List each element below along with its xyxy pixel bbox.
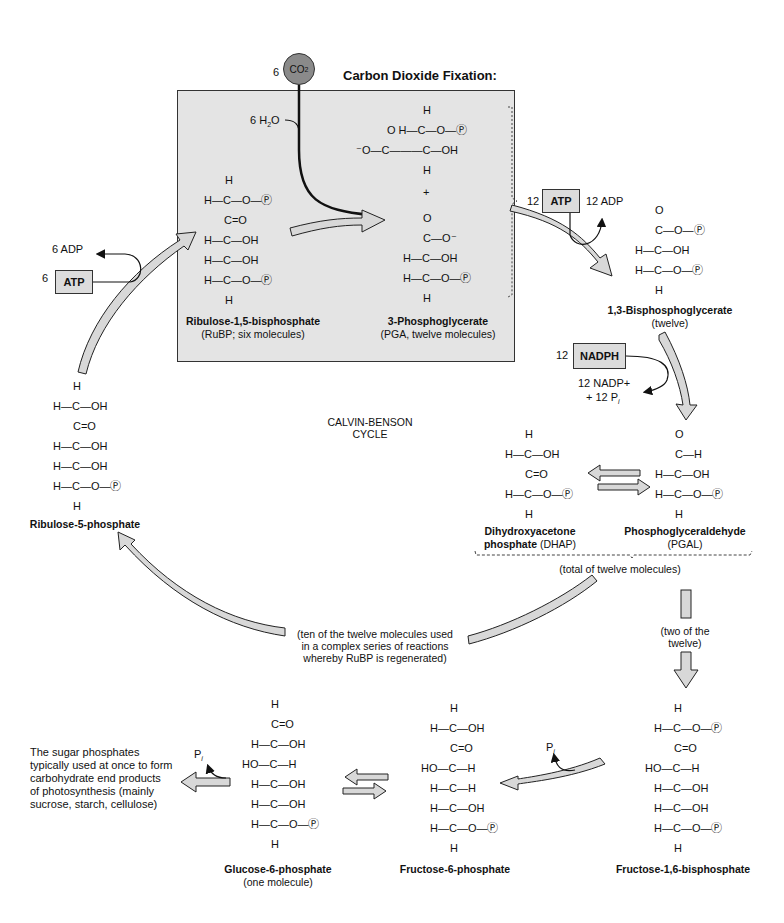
pgal-note: (PGAL)	[620, 538, 750, 550]
svg-text:H—C—O—Ⓟ: H—C—O—Ⓟ	[204, 194, 272, 206]
svg-text:HO—C—H: HO—C—H	[421, 762, 475, 774]
pi-g6p-label: Pi	[194, 748, 203, 762]
svg-text:H—C—OH: H—C—OH	[654, 782, 708, 794]
svg-text:H: H	[225, 294, 233, 306]
dhap-note-line: phosphate (DHAP)	[480, 538, 580, 550]
dhap-name: Dihydroxyacetone	[480, 525, 580, 537]
svg-text:H—C—O—Ⓟ: H—C—O—Ⓟ	[204, 274, 272, 286]
atp-left-box: ATP	[55, 270, 93, 294]
svg-text:H: H	[73, 500, 81, 512]
regeneration-note: (ten of the twelve molecules usedin a co…	[290, 628, 460, 664]
svg-text:H—C—O—Ⓟ: H—C—O—Ⓟ	[635, 264, 703, 276]
svg-text:H—C—OH: H—C—OH	[655, 468, 709, 480]
pi-label: + 12 Pi	[586, 391, 620, 405]
svg-text:H: H	[674, 842, 682, 854]
rubp-structure: H H—C—O—Ⓟ C=O H—C—OH H—C—OH H—C—O—Ⓟ H	[204, 174, 272, 306]
adp-left-label: 6 ADP	[52, 243, 83, 255]
svg-text:H—C—O—Ⓟ: H—C—O—Ⓟ	[505, 488, 573, 500]
svg-text:H: H	[271, 838, 279, 850]
svg-text:H—C—OH: H—C—OH	[204, 254, 258, 266]
pgal-name: Phosphoglyceraldehyde	[620, 525, 750, 537]
svg-text:H—C—O—Ⓟ: H—C—O—Ⓟ	[251, 818, 319, 830]
svg-text:HO—C—H: HO—C—H	[242, 758, 296, 770]
svg-text:H: H	[655, 284, 663, 296]
svg-text:H: H	[674, 702, 682, 714]
svg-text:O: O	[655, 204, 664, 216]
pga-structure-1: H O H—C—O—Ⓟ ⁻O—C———C—OH H +	[356, 104, 467, 198]
rubp-name: Ribulose-1,5-bisphosphate	[183, 315, 323, 327]
svg-text:C=O: C=O	[271, 718, 294, 730]
pga-note: (PGA, twelve molecules)	[373, 328, 503, 340]
ru5p-structure: H H—C—OH C=O H—C—OH H—C—OH H—C—O—Ⓟ H	[53, 380, 121, 512]
svg-text:H—C—OH: H—C—OH	[251, 778, 305, 790]
cycle-label: CALVIN-BENSONCYCLE	[310, 416, 430, 440]
bpg-name: 1,3-Bisphosphoglycerate	[600, 304, 740, 316]
svg-text:O: O	[675, 428, 684, 440]
pga-structure-2: O C—O⁻ H—C—OH H—C—O—Ⓟ H	[403, 212, 471, 304]
g6p-structure: H C=O H—C—OH HO—C—H H—C—OH H—C—OH H—C—O—…	[242, 698, 319, 850]
svg-text:O H—C—O—Ⓟ: O H—C—O—Ⓟ	[387, 124, 467, 136]
svg-text:H: H	[525, 428, 533, 440]
svg-text:H: H	[525, 508, 533, 520]
nadp-label: 12 NADP+	[578, 377, 630, 389]
svg-text:HO—C—H: HO—C—H	[645, 762, 699, 774]
svg-text:H—C—OH: H—C—OH	[430, 802, 484, 814]
svg-text:H—C—OH: H—C—OH	[430, 722, 484, 734]
svg-text:H—C—OH: H—C—OH	[635, 244, 689, 256]
adp-right-label: 12 ADP	[586, 195, 623, 207]
svg-text:H: H	[675, 508, 683, 520]
svg-text:H—C—O—Ⓟ: H—C—O—Ⓟ	[53, 480, 121, 492]
svg-text:H—C—H: H—C—H	[430, 782, 476, 794]
svg-text:C—O⁻: C—O⁻	[423, 232, 457, 244]
svg-text:H—C—OH: H—C—OH	[251, 738, 305, 750]
svg-text:H: H	[450, 702, 458, 714]
svg-text:H—C—OH: H—C—OH	[53, 440, 107, 452]
svg-text:H—C—O—Ⓟ: H—C—O—Ⓟ	[654, 722, 722, 734]
atp-left-coef: 6	[42, 272, 48, 284]
svg-text:H—C—O—Ⓟ: H—C—O—Ⓟ	[403, 272, 471, 284]
dhap-structure: H H—C—OH C=O H—C—O—Ⓟ H	[505, 428, 573, 520]
total-note: (total of twelve molecules)	[540, 563, 700, 575]
svg-text:H—C—OH: H—C—OH	[53, 460, 107, 472]
svg-text:C=O: C=O	[674, 742, 697, 754]
pga-name: 3-Phosphoglycerate	[373, 315, 503, 327]
svg-text:H—C—OH: H—C—OH	[53, 400, 107, 412]
end-products-note: The sugar phosphates typically used at o…	[30, 746, 180, 811]
atp-right-box: ATP	[542, 189, 580, 213]
svg-text:C—H: C—H	[675, 448, 702, 460]
svg-text:H—C—OH: H—C—OH	[251, 798, 305, 810]
atp-right-coef: 12	[527, 195, 539, 207]
svg-text:C=O: C=O	[224, 214, 247, 226]
svg-text:H—C—OH: H—C—OH	[505, 448, 559, 460]
svg-text:H—C—OH: H—C—OH	[403, 252, 457, 264]
pi-fbp-label: Pi	[546, 741, 555, 755]
fbp-structure: H H—C—O—Ⓟ C=O HO—C—H H—C—OH H—C—OH H—C—O…	[645, 702, 722, 854]
svg-text:H—C—O—Ⓟ: H—C—O—Ⓟ	[655, 488, 723, 500]
fbp-name: Fructose-1,6-bisphosphate	[608, 863, 758, 875]
two-of-twelve-note: (two of thetwelve)	[650, 625, 720, 649]
svg-text:+: +	[423, 186, 429, 198]
svg-text:C=O: C=O	[73, 420, 96, 432]
svg-text:H—C—O—Ⓟ: H—C—O—Ⓟ	[430, 822, 498, 834]
svg-text:H: H	[423, 104, 431, 116]
rubp-note: (RuBP; six molecules)	[183, 328, 323, 340]
pgal-structure: O C—H H—C—OH H—C—O—Ⓟ H	[655, 428, 723, 520]
svg-text:O: O	[423, 212, 432, 224]
f6p-structure: H H—C—OH C=O HO—C—H H—C—H H—C—OH H—C—O—Ⓟ…	[421, 702, 498, 854]
svg-text:⁻O—C———C—OH: ⁻O—C———C—OH	[356, 144, 458, 156]
svg-text:H: H	[271, 698, 279, 710]
svg-text:H—C—OH: H—C—OH	[654, 802, 708, 814]
svg-text:H: H	[423, 292, 431, 304]
svg-text:C=O: C=O	[450, 742, 473, 754]
g6p-note: (one molecule)	[218, 876, 338, 888]
svg-text:H—C—OH: H—C—OH	[204, 234, 258, 246]
nadph-coef: 12	[556, 349, 568, 361]
svg-text:H—C—O—Ⓟ: H—C—O—Ⓟ	[654, 822, 722, 834]
g6p-name: Glucose-6-phosphate	[218, 863, 338, 875]
svg-text:H: H	[73, 380, 81, 392]
bpg-structure: O C—O—Ⓟ H—C—OH H—C—O—Ⓟ H	[635, 204, 705, 296]
bpg-note: (twelve)	[600, 317, 740, 329]
ru5p-name: Ribulose-5-phosphate	[25, 518, 145, 530]
svg-text:H: H	[225, 174, 233, 186]
nadph-box: NADPH	[573, 343, 626, 369]
